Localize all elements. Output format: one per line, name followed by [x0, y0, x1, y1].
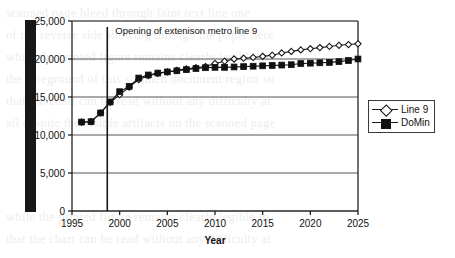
data-point-marker-domin	[336, 59, 342, 65]
legend-label-line9: Line 9	[401, 104, 428, 115]
data-point-marker-domin	[231, 64, 237, 70]
data-point-marker-domin	[307, 60, 313, 66]
y-axis-tick-label: 0	[59, 206, 65, 217]
data-point-marker-domin	[136, 75, 142, 81]
data-point-marker-domin	[184, 67, 190, 73]
data-point-marker-domin	[269, 63, 275, 69]
chart-figure: scanned page bleed through faint text li…	[0, 0, 455, 258]
x-axis-tick-label: 2005	[156, 218, 179, 229]
x-axis-tick-label: 1995	[61, 218, 84, 229]
data-point-marker-domin	[145, 72, 151, 78]
y-axis-tick-label: 5,000	[40, 168, 65, 179]
chart-legend: Line 9 DoMin	[368, 100, 435, 133]
series-line-line9	[82, 44, 358, 122]
data-point-marker-domin	[327, 60, 333, 66]
data-point-marker-line9	[288, 48, 294, 54]
data-point-marker-line9	[317, 45, 323, 51]
data-point-marker-line9	[336, 42, 342, 48]
y-axis-tick-label: 20,000	[34, 54, 65, 65]
data-point-marker-domin	[288, 62, 294, 68]
data-point-marker-line9	[250, 54, 256, 60]
data-point-marker-line9	[326, 43, 332, 49]
data-point-marker-line9	[298, 47, 304, 53]
x-axis-title: Year	[204, 235, 225, 246]
data-point-marker-line9	[279, 50, 285, 56]
data-point-marker-domin	[155, 70, 161, 76]
data-point-marker-domin	[212, 64, 218, 70]
series-line-domin	[82, 59, 358, 122]
x-axis-tick-label: 2015	[252, 218, 275, 229]
data-point-marker-domin	[117, 89, 123, 95]
open-diamond-marker-icon	[372, 104, 398, 115]
data-point-marker-line9	[355, 41, 361, 47]
x-axis-tick-label: 2000	[109, 218, 132, 229]
x-axis-tick-label: 2025	[347, 218, 370, 229]
y-axis-tick-label: 25,000	[34, 16, 65, 27]
data-point-marker-line9	[241, 55, 247, 61]
data-point-marker-domin	[79, 119, 85, 125]
legend-label-domin: DoMin	[401, 117, 430, 128]
data-point-marker-domin	[193, 66, 199, 72]
data-point-marker-line9	[269, 52, 275, 58]
data-point-marker-domin	[346, 58, 352, 64]
data-point-marker-domin	[126, 83, 132, 89]
data-point-marker-line9	[307, 46, 313, 52]
data-point-marker-domin	[164, 69, 170, 75]
annotation-label: Opening of extenison metro line 9	[115, 25, 257, 36]
x-axis-tick-label: 2020	[299, 218, 322, 229]
data-point-marker-domin	[203, 65, 209, 71]
legend-item-line9[interactable]: Line 9	[372, 103, 430, 116]
filled-square-marker-icon	[372, 117, 398, 128]
data-point-marker-domin	[98, 110, 104, 116]
data-point-marker-domin	[107, 99, 113, 105]
data-point-marker-domin	[317, 60, 323, 66]
data-point-marker-line9	[231, 56, 237, 62]
data-point-marker-line9	[345, 41, 351, 47]
x-axis-tick-label: 2010	[204, 218, 227, 229]
data-point-marker-domin	[222, 64, 228, 70]
data-point-marker-domin	[241, 64, 247, 70]
data-point-marker-domin	[174, 68, 180, 74]
data-point-marker-domin	[260, 63, 266, 69]
legend-item-domin[interactable]: DoMin	[372, 116, 430, 129]
data-point-marker-domin	[298, 61, 304, 67]
data-point-marker-domin	[279, 62, 285, 68]
data-point-marker-domin	[88, 119, 94, 125]
y-axis-tick-label: 15,000	[34, 92, 65, 103]
data-point-marker-domin	[250, 63, 256, 69]
data-point-marker-domin	[355, 56, 361, 62]
y-axis-tick-label: 10,000	[34, 130, 65, 141]
